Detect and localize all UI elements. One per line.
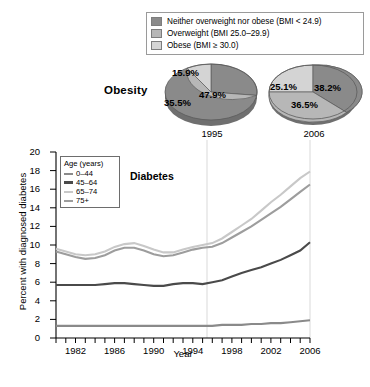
legend-item-overweight: Overweight (BMI 25.0–29.9) [151,28,359,39]
pie-2006-value-obese: 25.1% [270,81,297,92]
plot-area [0,140,370,355]
legend-item-obese: Obese (BMI ≥ 30.0) [151,40,359,51]
x-axis-label: Year [56,348,310,359]
pie-2006-value-neither: 38.2% [314,82,341,93]
diabetes-title: Diabetes [130,170,174,182]
diabetes-legend-swatch-75-plus [64,200,73,202]
pie-1995-caption: 1995 [158,128,266,139]
series-line-0-44 [56,320,310,326]
pie-2006-value-overweight: 36.5% [291,99,318,110]
diabetes-legend-label-45-64: 45–64 [76,178,97,187]
legend-swatch-neither [151,17,162,26]
diabetes-legend-item-75-plus: 75+ [64,196,116,205]
diabetes-legend-label-0-44: 0–44 [76,169,93,178]
pie-2006-caption: 2006 [262,128,366,139]
pie-chart-1995: 47.9% 35.5% 15.9% 1995 [158,56,266,146]
legend-item-neither: Neither overweight nor obese (BMI < 24.9… [151,16,359,27]
obesity-section-label: Obesity [104,84,148,96]
pie-1995-value-obese: 15.9% [172,67,199,78]
pie-1995-value-overweight: 35.5% [164,97,191,108]
pie-2006-svg [262,56,366,132]
diabetes-legend-title: Age (years) [64,159,116,168]
pie-chart-2006: 38.2% 36.5% 25.1% 2006 [262,56,366,146]
legend-swatch-obese [151,41,162,50]
legend-label-obese: Obese (BMI ≥ 30.0) [167,41,238,50]
diabetes-legend-swatch-0-44 [64,173,73,175]
diabetes-legend-item-45-64: 45–64 [64,178,116,187]
legend-label-neither: Neither overweight nor obese (BMI < 24.9… [167,17,322,26]
diabetes-legend-swatch-65-74 [64,191,73,193]
diabetes-legend-swatch-45-64 [64,181,73,184]
diabetes-legend: Age (years) 0–44 45–64 65–74 75+ [60,156,120,208]
pie-1995-value-neither: 47.9% [199,89,226,100]
diabetes-line-chart: Percent with diagnosed diabetes 20 18 16… [0,140,370,387]
diabetes-legend-item-65-74: 65–74 [64,187,116,196]
diabetes-legend-item-0-44: 0–44 [64,169,116,178]
legend-label-overweight: Overweight (BMI 25.0–29.9) [167,29,269,38]
pie-legend: Neither overweight nor obese (BMI < 24.9… [146,12,364,55]
diabetes-legend-label-65-74: 65–74 [76,187,97,196]
legend-swatch-overweight [151,29,162,38]
diabetes-legend-label-75-plus: 75+ [76,196,89,205]
